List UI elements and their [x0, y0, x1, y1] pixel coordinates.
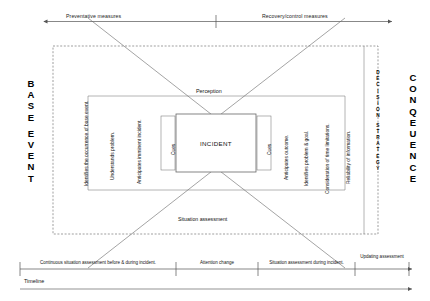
conq-letter-e: E: [404, 117, 422, 128]
timeline-segment-2: Attention change: [178, 260, 256, 265]
conq-letter-c: C: [404, 72, 422, 83]
left-factor-3: Anticipates imminent incident.: [137, 119, 142, 184]
timeline-segment-3: Situation assessment during incident.: [260, 260, 353, 265]
event-letter-n: N: [22, 161, 40, 172]
right-factor-1: Anticipates outcome.: [284, 135, 289, 180]
conq-letter-q: Q: [404, 106, 422, 117]
base-letter-s: S: [22, 100, 40, 111]
right-factor-2: Identifies problem & goal.: [304, 131, 309, 186]
right-factor-3: Consideration of time limitations.: [325, 123, 330, 194]
conq-letter-o: O: [404, 83, 422, 94]
conq-letter-e3: E: [404, 173, 422, 184]
right-factor-4: Reliability of information.: [346, 131, 351, 184]
timeline-segment-1: Continuous situation assessment before &…: [24, 260, 172, 265]
base-event-label: B A S E E V E N T: [22, 78, 40, 184]
incident-box-container: INCIDENT: [176, 114, 256, 172]
conq-letter-u: U: [404, 128, 422, 139]
conq-letter-c2: C: [404, 162, 422, 173]
incident-label: INCIDENT: [176, 140, 256, 147]
left-factor-1: Identifies the occurrence of base event.: [84, 101, 89, 186]
cues-right-label: Cues: [267, 144, 272, 155]
perception-label: Perception: [196, 88, 222, 94]
base-letter-b: B: [22, 78, 40, 89]
diagram-canvas: Preventative measures Recovery/control m…: [0, 0, 430, 301]
base-letter-e: E: [22, 112, 40, 123]
recovery-control-measures-label: Recovery/control measures: [262, 13, 328, 19]
conqeuence-label: C O N Q E U E N C E: [404, 72, 422, 184]
conq-letter-n2: N: [404, 150, 422, 161]
base-letter-a: A: [22, 89, 40, 100]
event-letter-e2: E: [22, 150, 40, 161]
event-letter-t: T: [22, 173, 40, 184]
preventative-measures-label: Preventative measures: [66, 13, 121, 19]
conq-letter-e2: E: [404, 139, 422, 150]
event-letter-e: E: [22, 128, 40, 139]
ds-letter-y: Y: [372, 166, 384, 172]
timeline-axis-label: Timeline: [24, 278, 44, 284]
decision-strategy-label: D E C I S I O N S T R A T E G Y: [372, 70, 384, 172]
situation-assessment-label: Situation assessment: [178, 216, 227, 222]
timeline-segment-4: Updating assessment: [357, 254, 407, 259]
left-factor-2: Understands problem.: [110, 132, 115, 180]
conq-letter-n: N: [404, 94, 422, 105]
event-letter-v: V: [22, 139, 40, 150]
cues-left-label: Cues: [171, 144, 176, 155]
